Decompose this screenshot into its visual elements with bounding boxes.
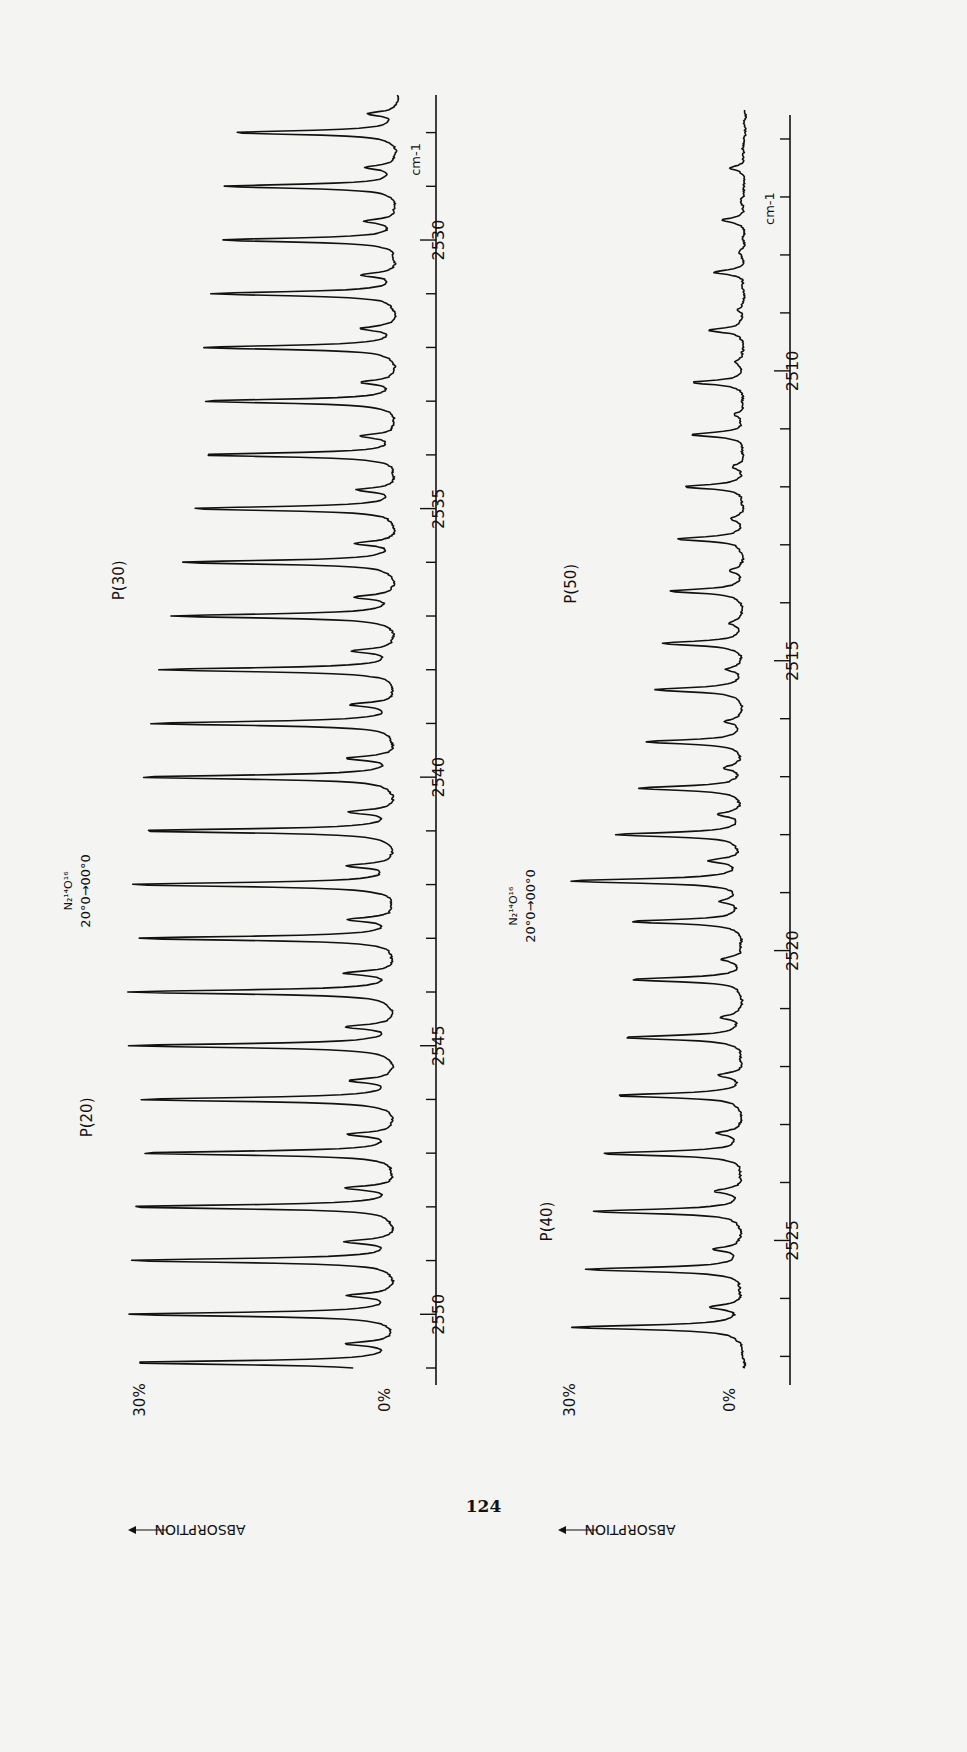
page-number: 124 — [0, 1496, 967, 1516]
unit-label: cm-1 — [762, 192, 777, 225]
document-page: 25502545254025352530cm-130%0%ABSORPTION2… — [0, 0, 967, 1752]
absorption-arrow-head-icon — [558, 1526, 566, 1534]
label-isotope-top: N₂¹⁴O¹⁶ — [62, 871, 75, 911]
label-transition-bottom: 20°0→00°0 — [523, 869, 538, 943]
absorption-label: ABSORPTION — [584, 1522, 675, 1538]
scale-0-percent: 0% — [376, 1388, 394, 1412]
unit-label: cm-1 — [408, 143, 423, 176]
tick-label-2530: 2530 — [429, 220, 448, 261]
scale-30-percent: 30% — [561, 1383, 579, 1416]
label-p40: P(40) — [538, 1202, 556, 1242]
label-p30: P(30) — [110, 560, 128, 600]
label-transition-top: 20°0→00°0 — [78, 854, 93, 928]
label-p20: P(20) — [78, 1098, 96, 1138]
tick-label-2550: 2550 — [429, 1294, 448, 1335]
spectrum-trace — [571, 110, 746, 1368]
spectrum-trace — [128, 95, 399, 1368]
absorption-arrow-head-icon — [128, 1526, 136, 1534]
tick-label-2510: 2510 — [783, 351, 802, 392]
absorption-label: ABSORPTION — [154, 1522, 245, 1538]
label-isotope-bottom: N₂¹⁴O¹⁶ — [507, 886, 520, 926]
scale-0-percent: 0% — [721, 1388, 739, 1412]
spectra-figure: 25502545254025352530cm-130%0%ABSORPTION2… — [0, 0, 967, 1752]
label-p50: P(50) — [562, 564, 580, 604]
tick-label-2545: 2545 — [429, 1025, 448, 1066]
tick-label-2525: 2525 — [783, 1220, 802, 1261]
tick-label-2520: 2520 — [783, 930, 802, 971]
tick-label-2540: 2540 — [429, 757, 448, 798]
tick-label-2515: 2515 — [783, 640, 802, 681]
scale-30-percent: 30% — [131, 1383, 149, 1416]
tick-label-2535: 2535 — [429, 488, 448, 529]
